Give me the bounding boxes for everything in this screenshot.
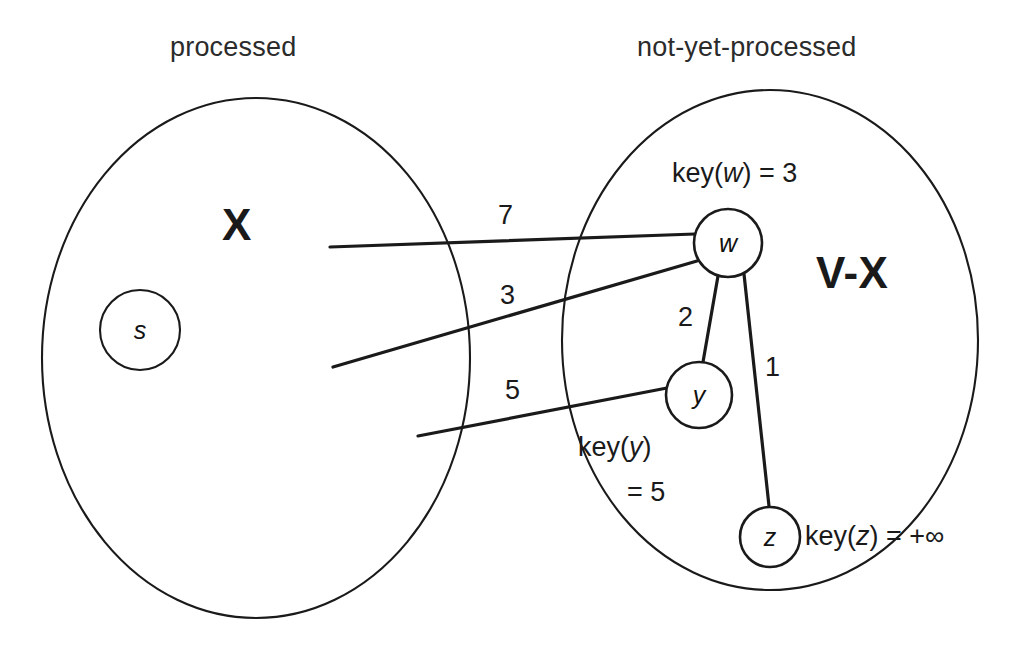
- edge-weight-3: 3: [500, 280, 515, 311]
- node-w-label: w: [708, 229, 748, 258]
- edge-weight-2: 2: [678, 302, 693, 333]
- edge-weight-7: 7: [498, 200, 513, 231]
- key-w-suffix: ) = 3: [743, 158, 798, 188]
- processed-set-ellipse: [42, 98, 470, 618]
- key-y-suffix: ): [643, 432, 652, 462]
- region-label-x: X: [222, 200, 252, 250]
- key-label-y-line1: key(y): [578, 432, 652, 463]
- key-w-prefix: key(: [672, 158, 723, 188]
- key-w-variable: w: [723, 158, 743, 188]
- key-z-suffix: ) = +∞: [870, 521, 945, 551]
- key-label-y-line2: = 5: [627, 477, 665, 508]
- region-label-v-minus-x: V-X: [816, 248, 888, 298]
- edge-weight-5: 5: [505, 375, 520, 406]
- key-z-prefix: key(: [805, 521, 856, 551]
- edge-weight-1: 1: [765, 352, 780, 383]
- key-label-z: key(z) = +∞: [805, 521, 944, 552]
- node-y-label: y: [679, 381, 719, 410]
- diagram-canvas: processed not-yet-processed X V-X s w y …: [0, 0, 1024, 663]
- edge-w-z-line: [744, 274, 769, 506]
- key-label-w: key(w) = 3: [672, 158, 797, 189]
- processed-set-label: processed: [170, 32, 296, 63]
- key-z-variable: z: [856, 521, 870, 551]
- key-y-variable: y: [629, 432, 643, 462]
- edge-w-y-line: [703, 276, 718, 362]
- node-z-label: z: [750, 523, 790, 552]
- node-s-label: s: [120, 316, 160, 345]
- not-yet-processed-set-label: not-yet-processed: [637, 32, 857, 63]
- key-y-prefix: key(: [578, 432, 629, 462]
